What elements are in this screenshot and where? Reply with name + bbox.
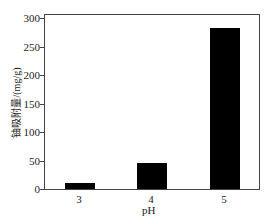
y-tick-label: 100 xyxy=(24,127,41,138)
y-tick-label: 200 xyxy=(24,70,41,81)
y-tick-label: 50 xyxy=(29,156,40,167)
y-tick-label: 150 xyxy=(24,99,41,110)
y-tick-label: 300 xyxy=(24,13,41,24)
y-tick-label: 250 xyxy=(24,42,41,53)
bar-ph-3 xyxy=(65,183,95,189)
x-tick-label: 5 xyxy=(214,193,234,205)
x-tick-label: 3 xyxy=(69,193,89,205)
y-tick-label: 0 xyxy=(35,184,41,195)
y-axis-title: 铀吸附量/(mg/g) xyxy=(8,58,23,148)
bar-ph-4 xyxy=(137,163,167,189)
bar-ph-5 xyxy=(210,28,240,189)
plot-area xyxy=(44,14,260,190)
x-axis-title: pH xyxy=(142,204,155,216)
